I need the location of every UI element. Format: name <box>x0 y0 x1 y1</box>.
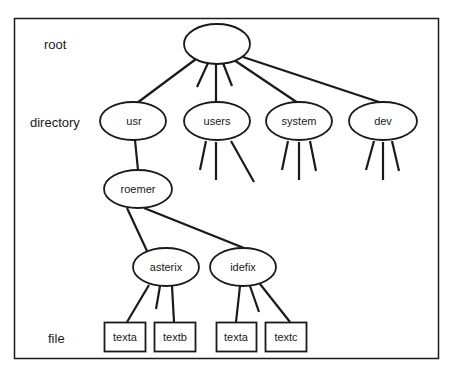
edge-idefix-texta <box>236 286 240 322</box>
edge-usr-roemer <box>135 140 138 170</box>
level-label-directory: directory <box>30 115 80 130</box>
edge-root-system <box>234 60 298 103</box>
edge-dev-stub-3 <box>392 141 399 171</box>
node-label-users: users <box>204 115 231 127</box>
node-label-roemer: roemer <box>121 183 156 195</box>
edge-roemer-asterix <box>127 208 147 251</box>
edge-root-stub-2 <box>223 63 232 86</box>
level-label-file: file <box>48 331 65 346</box>
node-label-system: system <box>282 115 317 127</box>
edge-system-stub-1 <box>282 141 288 170</box>
file-label-asterix-texta: texta <box>113 331 138 343</box>
edge-system-stub-3 <box>310 141 316 171</box>
edge-users-stub-1 <box>200 141 206 170</box>
edge-roemer-idefix <box>144 208 244 248</box>
file-label-idefix-texta: texta <box>224 331 249 343</box>
file-label-idefix-textc: textc <box>274 331 298 343</box>
node-label-idefix: idefix <box>230 261 256 273</box>
edge-asterix-textb <box>172 286 174 322</box>
file-label-asterix-textb: textb <box>163 331 187 343</box>
edge-dev-stub-1 <box>366 141 374 170</box>
node-root <box>184 24 250 64</box>
node-label-dev: dev <box>374 115 392 127</box>
node-label-asterix: asterix <box>150 261 183 273</box>
edge-asterix-texta <box>127 285 149 322</box>
node-label-usr: usr <box>126 115 142 127</box>
edge-root-stub-1 <box>197 63 208 87</box>
level-label-root: root <box>44 37 67 52</box>
edge-asterix-stub <box>156 286 160 309</box>
edge-users-stub-3 <box>231 141 254 182</box>
edge-root-usr <box>137 59 196 103</box>
edge-idefix-textc <box>260 284 290 322</box>
filesystem-tree-diagram: root directory file usr users system dev… <box>0 0 453 374</box>
edge-idefix-stub <box>250 286 259 312</box>
